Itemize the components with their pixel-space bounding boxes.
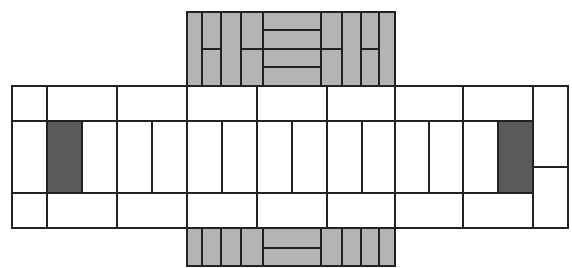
cell-bot-3 [220,227,242,267]
tiling-diagram [0,0,572,268]
cell-r2-4 [116,120,153,194]
cell-r2-7 [221,120,258,194]
cell-r1-5 [256,85,328,122]
cell-r3-1 [11,192,48,229]
cell-right-top [532,85,569,168]
cell-r1-2 [46,85,118,122]
cell-top-5d [262,66,322,87]
cell-r2-5 [151,120,188,194]
cell-r3-7 [394,192,464,229]
cell-top-3 [220,11,242,87]
cell-r2-11 [361,120,396,194]
cell-bot-8 [360,227,380,267]
cell-r2-2 [46,120,83,194]
cell-r2-1 [11,120,48,194]
cell-bot-7 [341,227,362,267]
cell-r1-1 [11,85,48,122]
cell-bot-5a [262,227,322,249]
cell-top-9 [378,11,396,87]
cell-r2-12 [394,120,430,194]
cell-top-2b [201,48,222,87]
cell-top-6b [320,48,343,87]
cell-top-5c [262,48,322,68]
cell-r2-15 [497,120,534,194]
cell-r2-8 [256,120,293,194]
cell-top-5a [262,11,322,31]
cell-r2-3 [81,120,118,194]
cell-r1-8 [462,85,534,122]
cell-bot-9 [378,227,396,267]
cell-bot-4 [240,227,264,267]
cell-bot-5b [262,247,322,267]
cell-r3-6 [326,192,396,229]
cell-r1-6 [326,85,396,122]
cell-r2-9 [291,120,328,194]
cell-r3-8 [462,192,534,229]
cell-top-7 [341,11,362,87]
cell-r2-10 [326,120,363,194]
cell-bot-2 [201,227,222,267]
cell-top-4b [240,48,264,87]
cell-r1-3 [116,85,188,122]
cell-r1-7 [394,85,464,122]
cell-bot-6 [320,227,343,267]
cell-r2-6 [186,120,223,194]
cell-r3-2 [46,192,118,229]
cell-r2-13 [428,120,464,194]
cell-top-8a [360,11,380,50]
cell-r3-5 [256,192,328,229]
cell-right-bottom [532,166,569,229]
cell-r2-14 [462,120,499,194]
cell-top-6a [320,11,343,50]
cell-r3-4 [186,192,258,229]
cell-top-5b [262,29,322,50]
cell-top-2a [201,11,222,50]
cell-top-8b [360,48,380,87]
cell-top-4a [240,11,264,50]
cell-r1-4 [186,85,258,122]
cell-r3-3 [116,192,188,229]
